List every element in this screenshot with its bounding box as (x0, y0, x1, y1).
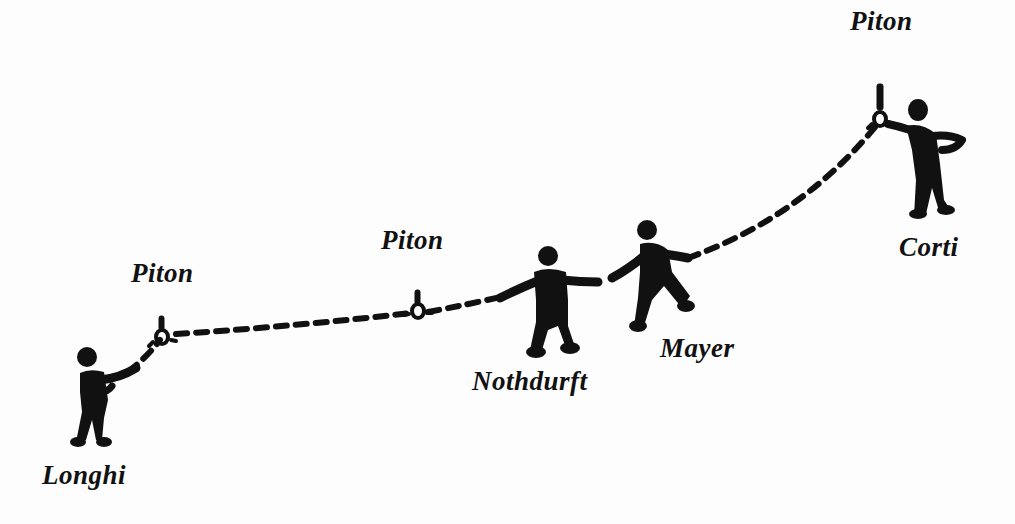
climber-label-corti: Corti (899, 232, 959, 263)
piton-label: Piton (381, 225, 444, 256)
climber-label-longhi: Longhi (42, 460, 126, 491)
piton-icon (404, 290, 432, 318)
rope-segment-piton1-piton2 (176, 313, 410, 334)
piton-label: Piton (131, 258, 194, 289)
rope-segment-mayer-piton3 (688, 126, 876, 258)
piton-label: Piton (850, 6, 913, 37)
climber-figure-longhi (70, 347, 136, 447)
climber-figure-corti (888, 99, 962, 219)
climber-figure-mayer (612, 220, 695, 332)
climber-figure-nothdurft (500, 246, 598, 358)
climber-label-mayer: Mayer (660, 333, 734, 364)
climber-label-nothdurft: Nothdurft (472, 366, 588, 397)
rope-segment-piton2-nothdurft (428, 296, 505, 312)
diagram-canvas: Piton Piton Piton Longhi Nothdurft Mayer… (0, 0, 1015, 524)
